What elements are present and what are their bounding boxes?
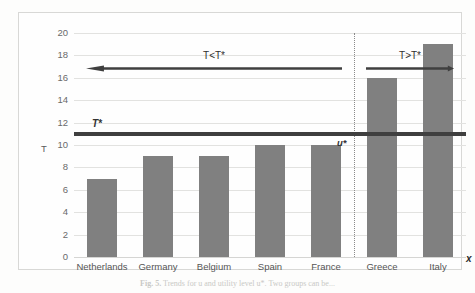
x-tick-label: Italy xyxy=(429,262,446,272)
y-tick-label: 14 xyxy=(57,95,68,105)
annotation-left-label: T<T* xyxy=(203,51,225,61)
gridline: 14 xyxy=(74,100,466,101)
x-tick-label: Greece xyxy=(366,262,397,272)
y-axis-title: T xyxy=(41,144,47,154)
annotation-right-group: T>T* xyxy=(366,51,454,73)
figure-container: T 02468101214161820 NetherlandsGermanyBe… xyxy=(0,0,475,293)
caption-prefix: Fig. 5. xyxy=(140,280,161,288)
y-tick-label: 0 xyxy=(63,252,68,262)
annotation-right-label: T>T* xyxy=(399,51,421,61)
x-tick-label: Germany xyxy=(138,262,177,272)
gridline: 16 xyxy=(74,78,466,79)
bar xyxy=(423,44,453,257)
bar xyxy=(143,156,173,257)
bar xyxy=(87,179,117,257)
x-tick-label: France xyxy=(311,262,341,272)
gridline: 20 xyxy=(74,33,466,34)
gridline: 0 xyxy=(74,257,466,258)
y-tick-label: 6 xyxy=(63,185,68,195)
x-axis-title: x xyxy=(466,254,472,264)
bar xyxy=(311,145,341,257)
bar xyxy=(199,156,229,257)
u-star-label: u* xyxy=(337,138,347,148)
chart-frame: T 02468101214161820 NetherlandsGermanyBe… xyxy=(18,12,462,270)
y-tick-label: 18 xyxy=(57,51,68,61)
annotation-left-group: T<T* xyxy=(86,51,342,73)
y-tick-label: 20 xyxy=(57,28,68,38)
arrow-left-icon xyxy=(86,64,342,73)
y-tick-label: 10 xyxy=(57,140,68,150)
figure-caption: Fig. 5. Trends for u and utility level u… xyxy=(0,280,475,289)
gridline: 12 xyxy=(74,123,466,124)
y-tick-label: 8 xyxy=(63,163,68,173)
x-tick-label: Spain xyxy=(258,262,282,272)
group-divider-line xyxy=(354,33,355,257)
y-tick-label: 4 xyxy=(63,207,68,217)
t-star-reference-line xyxy=(74,132,466,136)
bar xyxy=(367,78,397,257)
caption-text: Trends for u and utility level u*. Two g… xyxy=(163,280,335,288)
x-tick-label: Netherlands xyxy=(76,262,127,272)
bar xyxy=(255,145,285,257)
t-star-label: T* xyxy=(92,119,102,129)
y-tick-label: 16 xyxy=(57,73,68,83)
arrow-right-icon xyxy=(366,64,454,73)
y-tick-label: 12 xyxy=(57,118,68,128)
x-tick-label: Belgium xyxy=(197,262,231,272)
y-tick-label: 2 xyxy=(63,230,68,240)
plot-area: 02468101214161820 NetherlandsGermanyBelg… xyxy=(74,33,466,257)
